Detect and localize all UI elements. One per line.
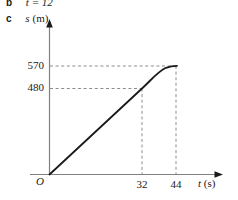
- x-axis: [30, 171, 223, 178]
- y-tick-480: 480: [0, 82, 48, 94]
- displacement-curve: [50, 66, 178, 175]
- origin-label: O: [36, 176, 44, 187]
- x-axis-unit: (s): [204, 177, 216, 189]
- y-tick-570-label: 570: [28, 60, 45, 71]
- x-tick-32-label: 32: [127, 179, 157, 190]
- y-tick-480-label: 480: [28, 82, 45, 93]
- x-tick-44-label: 44: [161, 179, 191, 190]
- figure-page: b t = 12 c s(m) 570 480 32: [0, 0, 238, 200]
- x-axis-symbol: t: [198, 177, 201, 189]
- y-axis: [46, 19, 53, 175]
- displacement-time-graph: [0, 0, 238, 200]
- x-axis-title: t (s): [198, 178, 215, 189]
- y-tick-570: 570: [0, 60, 48, 72]
